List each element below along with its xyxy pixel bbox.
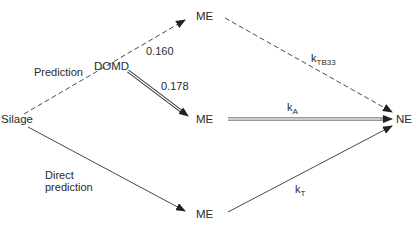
edge-me-bottom-to-ne [228,126,392,212]
label-coef-0178: 0.178 [161,80,189,93]
label-k-t: kT [295,183,305,200]
label-k-a: kA [287,101,298,118]
node-me-top: ME [196,10,213,23]
edge-me-top-to-ne [225,18,392,112]
label-direct-prediction: prediction [45,181,93,194]
label-k-tb33: kTB33 [311,52,336,69]
node-me-bottom: ME [196,208,213,221]
label-coef-0160: 0.160 [146,45,174,58]
label-prediction: Prediction [34,66,83,79]
node-silage: Silage [1,113,33,126]
node-me-mid: ME [196,113,213,126]
node-domd: DOMD [94,60,129,73]
node-ne: NE [396,113,412,126]
